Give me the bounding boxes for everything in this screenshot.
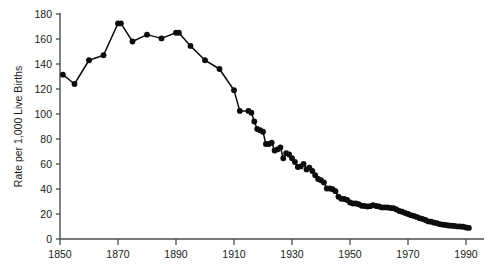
y-axis-tick-label: 20 — [40, 208, 52, 220]
data-point — [159, 35, 165, 41]
y-axis-tick-label: 100 — [34, 108, 52, 120]
data-point — [231, 87, 237, 93]
data-point — [217, 66, 223, 72]
data-point — [144, 32, 150, 38]
x-axis-tick-label: 1950 — [338, 248, 362, 260]
x-axis-tick-label: 1890 — [164, 248, 188, 260]
data-point — [176, 30, 182, 36]
axis-titles: Rate per 1,000 Live Births — [12, 66, 24, 187]
y-axis: 020406080100120140160180 — [34, 8, 60, 245]
data-point — [301, 161, 307, 167]
x-axis: 18501870189019101930195019701990 — [48, 239, 484, 260]
y-axis-tick-label: 80 — [40, 133, 52, 145]
data-point — [278, 144, 284, 150]
data-point — [60, 72, 66, 78]
x-axis-tick-label: 1870 — [106, 248, 130, 260]
data-point — [249, 110, 255, 116]
data-point — [321, 179, 327, 185]
y-axis-tick-label: 180 — [34, 8, 52, 20]
data-point — [292, 159, 298, 165]
data-point — [188, 43, 194, 49]
y-axis-tick-label: 120 — [34, 83, 52, 95]
data-point — [237, 108, 243, 114]
data-point — [72, 81, 78, 87]
y-axis-tick-label: 60 — [40, 158, 52, 170]
x-axis-tick-label: 1970 — [396, 248, 420, 260]
data-point — [251, 119, 257, 125]
x-axis-tick-label: 1930 — [280, 248, 304, 260]
data-series — [60, 20, 472, 230]
y-axis-tick-label: 160 — [34, 33, 52, 45]
data-point — [118, 20, 124, 26]
series-line — [63, 23, 469, 228]
y-axis-tick-label: 140 — [34, 58, 52, 70]
data-point — [269, 140, 275, 146]
data-point — [202, 57, 208, 63]
infant-mortality-line-chart: 020406080100120140160180 185018701890191… — [0, 0, 495, 276]
chart-canvas: 020406080100120140160180 185018701890191… — [0, 0, 495, 276]
data-point — [333, 188, 339, 194]
data-point — [130, 39, 136, 45]
data-point — [280, 155, 286, 161]
y-axis-title: Rate per 1,000 Live Births — [12, 66, 24, 187]
data-point — [101, 52, 107, 58]
data-point — [86, 57, 92, 63]
y-axis-tick-label: 40 — [40, 183, 52, 195]
y-axis-tick-label: 0 — [46, 233, 52, 245]
data-point — [260, 129, 266, 135]
x-axis-tick-label: 1990 — [454, 248, 478, 260]
data-point — [466, 225, 472, 231]
x-axis-tick-label: 1910 — [222, 248, 246, 260]
x-axis-tick-label: 1850 — [48, 248, 72, 260]
